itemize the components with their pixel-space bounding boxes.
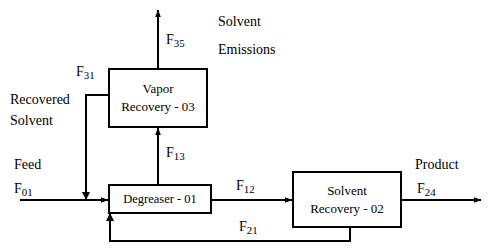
feed-text: Feed	[14, 157, 41, 172]
unit-box-vapor-recovery[interactable]: Vapor Recovery - 03	[108, 68, 208, 128]
stream-arrow-f21	[106, 213, 114, 221]
label-solvent-emissions-line2: Emissions	[218, 41, 276, 59]
stream-label-f01-base: F	[14, 181, 22, 196]
recovered-solvent-text-1: Recovered	[10, 92, 70, 107]
stream-label-f24-sub: 24	[425, 186, 436, 198]
stream-label-f24: F24	[417, 180, 436, 199]
stream-label-f21-base: F	[239, 219, 247, 234]
solvent-emissions-text-2: Emissions	[218, 42, 276, 57]
stream-label-f12: F12	[236, 177, 255, 196]
label-feed: Feed	[14, 156, 41, 174]
label-solvent-emissions-line1: Solvent	[218, 13, 261, 31]
diagram-connectors	[0, 0, 499, 251]
unit-label-solvent-recovery-line1: Solvent	[327, 182, 367, 200]
unit-label-vapor-recovery-line1: Vapor	[142, 80, 173, 98]
product-text: Product	[415, 157, 459, 172]
unit-label-vapor-recovery-line2: Recovery - 03	[121, 98, 195, 116]
stream-arrow-f31	[82, 192, 90, 200]
unit-label-solvent-recovery-line2: Recovery - 02	[310, 200, 384, 218]
unit-box-solvent-recovery[interactable]: Solvent Recovery - 02	[292, 171, 402, 228]
stream-label-f21: F21	[239, 218, 258, 237]
stream-label-f12-base: F	[236, 178, 244, 193]
label-product: Product	[415, 156, 459, 174]
stream-label-f13-base: F	[166, 145, 174, 160]
stream-label-f01-sub: 01	[22, 186, 33, 198]
stream-line-f31	[86, 95, 110, 200]
stream-label-f35: F35	[166, 31, 185, 50]
stream-label-f35-base: F	[166, 32, 174, 47]
recovered-solvent-text-2: Solvent	[10, 113, 53, 128]
stream-label-f31: F31	[76, 63, 95, 82]
stream-label-f31-sub: 31	[84, 69, 95, 81]
stream-label-f13: F13	[166, 144, 185, 163]
stream-label-f13-sub: 13	[174, 150, 185, 162]
stream-label-f35-sub: 35	[174, 37, 185, 49]
stream-label-f12-sub: 12	[244, 183, 255, 195]
unit-box-degreaser[interactable]: Degreaser - 01	[108, 184, 212, 214]
label-recovered-solvent-line2: Solvent	[10, 112, 53, 130]
process-flow-diagram: Vapor Recovery - 03 Degreaser - 01 Solve…	[0, 0, 499, 251]
solvent-emissions-text-1: Solvent	[218, 14, 261, 29]
stream-label-f21-sub: 21	[247, 224, 258, 236]
stream-label-f24-base: F	[417, 181, 425, 196]
unit-label-degreaser: Degreaser - 01	[123, 191, 197, 208]
stream-label-f01: F01	[14, 180, 33, 199]
stream-label-f31-base: F	[76, 64, 84, 79]
label-recovered-solvent-line1: Recovered	[10, 91, 70, 109]
